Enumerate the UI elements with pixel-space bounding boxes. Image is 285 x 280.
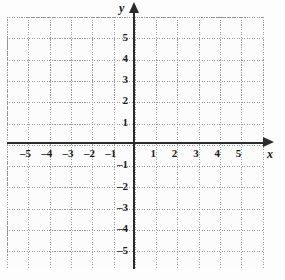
y-tick-label: 1: [108, 116, 128, 127]
x-tick-label: –2: [84, 148, 95, 159]
x-tick-label: 3: [193, 148, 199, 159]
gridline-horizontal: [7, 81, 263, 82]
y-tick-label: –5: [108, 244, 128, 255]
y-tick-label: –2: [108, 180, 128, 191]
y-tick-label: 2: [108, 95, 128, 106]
gridline-horizontal: [7, 38, 263, 39]
y-axis-arrow-icon: [129, 2, 139, 13]
y-axis-label: y: [119, 2, 124, 14]
gridline-horizontal: [7, 166, 263, 167]
gridline-horizontal: [7, 102, 263, 103]
y-tick-label: –1: [108, 159, 128, 170]
gridline-horizontal: [7, 251, 263, 252]
gridline-horizontal: [7, 17, 263, 18]
x-tick-label: –1: [105, 148, 116, 159]
gridline-horizontal: [7, 124, 263, 125]
gridline-horizontal: [7, 187, 263, 188]
x-tick-label: 1: [151, 148, 157, 159]
y-tick-label: –4: [108, 223, 128, 234]
gridline-horizontal: [7, 230, 263, 231]
coordinate-plane: x y –5–4–3–2–112345 54321–1–2–3–4–5: [0, 0, 285, 280]
y-axis-line: [133, 12, 135, 269]
x-axis-line: [7, 142, 265, 144]
gridline-horizontal: [7, 60, 263, 61]
x-tick-label: –3: [63, 148, 74, 159]
y-tick-label: 3: [108, 74, 128, 85]
x-axis-label: x: [267, 148, 273, 160]
y-tick-label: –3: [108, 201, 128, 212]
gridline-horizontal: [7, 209, 263, 210]
x-tick-label: 4: [214, 148, 220, 159]
y-tick-label: 4: [108, 52, 128, 63]
x-tick-label: 2: [172, 148, 178, 159]
x-axis-arrow-icon: [263, 137, 274, 147]
x-tick-label: –5: [20, 148, 31, 159]
gridline-horizontal: [7, 145, 263, 146]
y-tick-label: 5: [108, 31, 128, 42]
x-tick-label: –4: [41, 148, 52, 159]
x-tick-label: 5: [236, 148, 242, 159]
